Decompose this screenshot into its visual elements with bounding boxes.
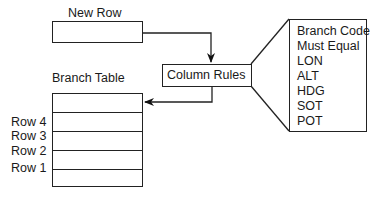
rule-item: Branch Code [297, 24, 370, 39]
new-row-box [52, 21, 143, 43]
rule-item: SOT [297, 99, 370, 114]
callout-line-top [251, 19, 289, 64]
branch-table [52, 93, 143, 187]
row-label-1: Row 1 [11, 161, 46, 175]
table-row [53, 151, 142, 170]
rule-item: POT [297, 114, 370, 129]
rule-item: Must Equal [297, 39, 370, 54]
table-row [53, 132, 142, 151]
new-row-label: New Row [68, 6, 122, 20]
column-rules-box: Column Rules [162, 64, 252, 87]
arrow-column-rules-to-branch-table [145, 86, 212, 102]
row-label-2: Row 2 [11, 144, 46, 158]
table-row [53, 113, 142, 132]
rules-list: Branch Code Must Equal LON ALT HDG SOT P… [297, 24, 370, 129]
table-row [53, 94, 142, 113]
column-rules-label: Column Rules [167, 68, 246, 82]
branch-table-label: Branch Table [52, 71, 125, 85]
row-label-3: Row 3 [11, 129, 46, 143]
rule-item: ALT [297, 69, 370, 84]
rule-item: HDG [297, 84, 370, 99]
arrow-new-row-to-column-rules [143, 33, 211, 62]
callout-line-bottom [251, 86, 289, 131]
rule-item: LON [297, 54, 370, 69]
row-label-4: Row 4 [11, 115, 46, 129]
